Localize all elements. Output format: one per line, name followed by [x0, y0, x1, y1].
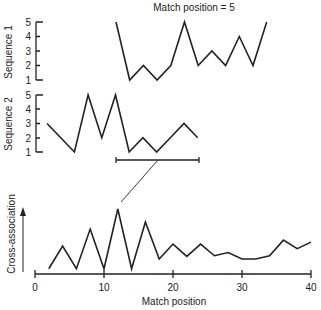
overlap-bracket [116, 157, 199, 202]
tick: 3 [25, 46, 31, 57]
tick: 5 [25, 17, 31, 28]
tick: 2 [25, 60, 31, 71]
tick: 10 [98, 282, 110, 293]
sequence1-panel: Sequence 1 1 2 3 4 5 [3, 17, 267, 86]
cross-association-label: Cross-association [6, 194, 17, 273]
connector-line [121, 160, 158, 202]
figure-title: Match position = 5 [153, 2, 235, 13]
sequence2-label: Sequence 2 [3, 97, 14, 151]
tick: 4 [25, 31, 31, 42]
tick: 30 [236, 282, 248, 293]
tick: 4 [25, 104, 31, 115]
tick: 20 [167, 282, 179, 293]
tick: 0 [32, 282, 38, 293]
tick: 1 [25, 147, 31, 158]
tick: 3 [25, 118, 31, 129]
tick: 1 [25, 75, 31, 86]
cross-association-line [49, 209, 311, 269]
tick: 40 [305, 282, 317, 293]
sequence1-label: Sequence 1 [3, 25, 14, 79]
arrow-head-icon [20, 207, 26, 216]
figure: Match position = 5 Sequence 1 1 2 3 4 5 … [0, 0, 321, 310]
sequence2-line [47, 95, 198, 152]
cross-association-panel: Cross-association 0 10 20 30 40 Match po… [6, 194, 317, 307]
x-axis-label: Match position [142, 296, 206, 307]
sequence1-line [116, 22, 267, 80]
x-axis [35, 270, 311, 278]
tick: 2 [25, 133, 31, 144]
tick: 5 [25, 90, 31, 101]
sequence2-axis [36, 95, 43, 152]
sequence1-axis [36, 22, 43, 80]
sequence2-panel: Sequence 2 1 2 3 4 5 [3, 90, 198, 158]
